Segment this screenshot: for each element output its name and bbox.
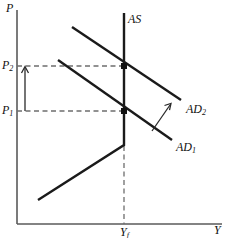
full-employment-output-label: Yf: [120, 226, 129, 238]
price-level-2-label: P2: [2, 59, 13, 71]
ad-as-diagram: P Y AS AD2 AD1 P2 P1 Yf: [0, 0, 229, 238]
ad-shift-arrow: [152, 104, 171, 132]
full-employment-output-text: Y: [120, 225, 127, 238]
guide-lines-group: [17, 66, 124, 224]
equilibrium-point-2: [121, 63, 127, 69]
price-rise-arrow: [22, 67, 29, 112]
ad2-curve-label-sub: 2: [202, 108, 206, 117]
x-axis-label: Y: [214, 224, 221, 236]
price-level-1-sub: 1: [9, 109, 13, 118]
ad1-curve-label-text: AD: [176, 140, 192, 154]
axes-group: [17, 10, 222, 224]
price-level-1-label: P1: [2, 104, 13, 116]
ad1-curve-label-sub: 1: [192, 146, 196, 155]
ad2-curve-label: AD2: [186, 103, 206, 115]
full-employment-output-sub: f: [127, 231, 129, 238]
as-curve: [38, 13, 124, 200]
ad2-curve-label-text: AD: [186, 102, 202, 116]
as-curve-label: AS: [128, 13, 141, 25]
diagram-canvas: [0, 0, 229, 238]
y-axis-label: P: [6, 2, 13, 14]
price-level-2-sub: 2: [9, 64, 13, 73]
ad1-curve-label: AD1: [176, 141, 196, 153]
ad1-curve: [58, 60, 172, 140]
equilibrium-point-1: [121, 108, 127, 114]
